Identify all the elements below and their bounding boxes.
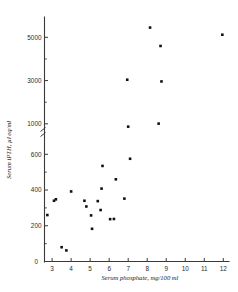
plot-canvas: 200400600100030005000 3456789101112 0 Se…	[0, 0, 238, 292]
data-point	[100, 187, 103, 190]
y-tick-label: 200	[31, 222, 42, 229]
data-point	[129, 157, 132, 160]
data-point	[123, 197, 126, 200]
data-point	[70, 190, 73, 193]
data-point	[159, 45, 162, 48]
data-point	[126, 78, 129, 81]
x-tick-label: 6	[107, 265, 111, 272]
data-point	[221, 33, 224, 36]
axis-lines	[45, 17, 230, 262]
x-axis-title: Serum phosphate, mg/100 ml	[102, 274, 179, 281]
data-points-layer	[46, 26, 224, 251]
data-point	[83, 199, 86, 202]
x-tick-label: 8	[145, 265, 149, 272]
data-point	[55, 198, 58, 201]
y-tick-label: 5000	[27, 34, 42, 41]
y-tick-label: 600	[31, 151, 42, 158]
data-point	[99, 209, 102, 212]
x-tick-label: 5	[88, 265, 92, 272]
x-tick-label: 11	[201, 265, 208, 272]
x-tick-label: 12	[220, 265, 228, 272]
data-point	[60, 246, 63, 249]
x-axis-tick-labels: 3456789101112	[50, 265, 227, 272]
data-point	[85, 205, 88, 208]
data-point	[160, 80, 163, 83]
data-point	[113, 218, 116, 221]
data-point	[90, 214, 93, 217]
x-tick-label: 10	[182, 265, 190, 272]
data-point	[149, 26, 152, 29]
y-axis-tick-labels: 200400600100030005000	[27, 34, 42, 229]
data-point	[46, 214, 49, 217]
x-tick-label: 3	[50, 265, 54, 272]
data-point	[127, 125, 130, 128]
y-axis-title: Serum iPTH, µl eq/ml	[5, 121, 12, 179]
y-tick-label: 1000	[27, 120, 42, 127]
scatter-plot-figure: 200400600100030005000 3456789101112 0 Se…	[0, 0, 238, 292]
data-point	[109, 218, 112, 221]
data-point	[157, 122, 160, 125]
data-point	[101, 165, 104, 168]
x-tick-label: 7	[126, 265, 130, 272]
y-axis-origin-label: 0	[34, 258, 38, 265]
data-point	[96, 200, 99, 203]
data-point	[115, 178, 118, 181]
x-tick-label: 9	[164, 265, 168, 272]
data-point	[65, 249, 68, 252]
y-tick-label: 3000	[27, 77, 42, 84]
x-tick-label: 4	[69, 265, 73, 272]
y-tick-label: 400	[31, 186, 42, 193]
data-point	[91, 228, 94, 231]
